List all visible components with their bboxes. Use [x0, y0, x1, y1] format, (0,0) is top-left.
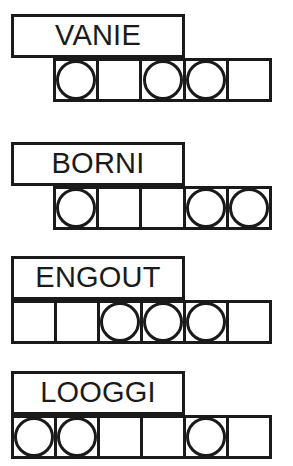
word-label-text: BORNI: [52, 149, 145, 180]
answer-cell[interactable]: [14, 303, 57, 341]
answer-cell[interactable]: [229, 418, 269, 456]
answer-cell[interactable]: [100, 418, 143, 456]
circle-icon: [186, 60, 226, 100]
circle-icon: [229, 188, 269, 228]
answer-cell[interactable]: [57, 303, 100, 341]
answer-cell[interactable]: [186, 418, 229, 456]
answer-cell[interactable]: [56, 61, 99, 99]
answer-cell[interactable]: [229, 303, 269, 341]
circle-icon: [143, 60, 183, 100]
answer-grid: [53, 186, 272, 230]
word-label-box: ENGOUT: [11, 256, 185, 300]
circle-icon: [14, 417, 54, 457]
circle-icon: [57, 417, 97, 457]
answer-grid: [11, 300, 272, 344]
word-label-text: ENGOUT: [35, 263, 160, 294]
circle-icon: [143, 302, 183, 342]
circle-icon: [186, 302, 226, 342]
answer-cell[interactable]: [142, 61, 185, 99]
word-label-text: VANIE: [55, 21, 141, 52]
word-label-box: LOOGGI: [11, 371, 185, 415]
answer-grid: [53, 58, 272, 102]
circle-icon: [186, 417, 226, 457]
circle-icon: [56, 60, 96, 100]
puzzle-sheet: VANIEBORNIENGOUTLOOGGI: [0, 0, 293, 466]
answer-cell[interactable]: [186, 61, 229, 99]
answer-cell[interactable]: [143, 418, 186, 456]
answer-cell[interactable]: [143, 303, 186, 341]
circle-icon: [186, 188, 226, 228]
answer-cell[interactable]: [56, 189, 99, 227]
word-label-box: VANIE: [11, 14, 185, 58]
answer-cell[interactable]: [186, 189, 229, 227]
answer-cell[interactable]: [229, 189, 269, 227]
answer-cell[interactable]: [142, 189, 185, 227]
word-label-text: LOOGGI: [40, 378, 156, 409]
answer-cell[interactable]: [14, 418, 57, 456]
answer-cell[interactable]: [57, 418, 100, 456]
answer-grid: [11, 415, 272, 459]
answer-cell[interactable]: [186, 303, 229, 341]
answer-cell[interactable]: [100, 303, 143, 341]
circle-icon: [56, 188, 96, 228]
answer-cell[interactable]: [99, 189, 142, 227]
answer-cell[interactable]: [99, 61, 142, 99]
word-label-box: BORNI: [11, 142, 185, 186]
circle-icon: [100, 302, 140, 342]
answer-cell[interactable]: [229, 61, 269, 99]
